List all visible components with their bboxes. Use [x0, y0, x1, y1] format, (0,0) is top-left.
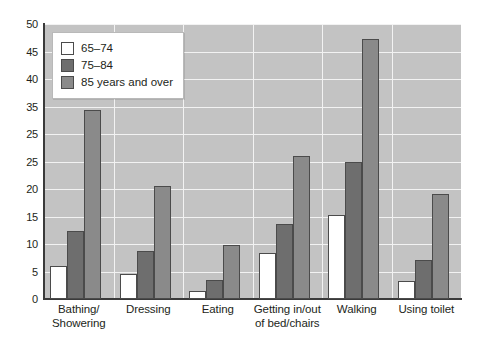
bar[interactable]	[206, 280, 223, 299]
y-axis-tick-label: 25	[4, 157, 38, 167]
bar-group	[259, 24, 310, 299]
bar[interactable]	[293, 156, 310, 299]
y-axis-tick-label: 35	[4, 102, 38, 112]
bar-group	[398, 24, 449, 299]
bar[interactable]	[223, 245, 240, 299]
legend-swatch-65-74	[61, 42, 74, 55]
legend-label: 65–74	[81, 42, 113, 55]
bar[interactable]	[276, 224, 293, 299]
bar[interactable]	[398, 281, 415, 299]
bar[interactable]	[154, 186, 171, 299]
bar[interactable]	[137, 251, 154, 299]
y-axis-tick-label: 15	[4, 212, 38, 222]
y-axis-tick-label: 5	[4, 267, 38, 277]
legend-swatch-85-and-over	[61, 76, 74, 89]
y-axis-tick-labels: 50454035252520151050	[0, 0, 38, 346]
legend-item[interactable]: 85 years and over	[61, 74, 173, 91]
bar-group	[328, 24, 379, 299]
y-axis-tick-label: 50	[4, 19, 38, 29]
y-axis-tick-label: 25	[4, 129, 38, 139]
bar[interactable]	[120, 274, 137, 299]
x-axis-category-labels: Bathing/ShoweringDressingEatingGetting i…	[44, 303, 461, 346]
legend-swatch-75-84	[61, 59, 74, 72]
legend: 65–74 75–84 85 years and over	[52, 32, 184, 99]
y-axis-tick-label: 20	[4, 184, 38, 194]
legend-item[interactable]: 75–84	[61, 57, 173, 74]
legend-label: 85 years and over	[81, 76, 173, 89]
y-axis-tick-label: 40	[4, 74, 38, 84]
y-axis-tick-label: 45	[4, 47, 38, 57]
bar[interactable]	[345, 162, 362, 299]
y-axis-tick-label: 10	[4, 239, 38, 249]
legend-item[interactable]: 65–74	[61, 40, 173, 57]
bar[interactable]	[67, 231, 84, 299]
bar[interactable]	[432, 194, 449, 299]
bar-group	[189, 24, 240, 299]
bar[interactable]	[328, 215, 345, 299]
bar[interactable]	[362, 39, 379, 299]
bar-chart: 50454035252520151050 Bathing/ShoweringDr…	[0, 0, 485, 346]
bar[interactable]	[50, 266, 67, 299]
bar[interactable]	[415, 260, 432, 299]
legend-label: 75–84	[81, 59, 113, 72]
x-axis-category-label: Using toilet	[367, 303, 485, 317]
bar[interactable]	[84, 110, 101, 299]
bar[interactable]	[189, 291, 206, 299]
bar[interactable]	[259, 253, 276, 299]
